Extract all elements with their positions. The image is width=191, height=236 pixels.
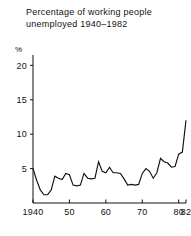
- y-axis-ticks: 5101520: [17, 61, 33, 174]
- axes-group: [33, 55, 186, 203]
- plot-area: 5101520 19405060708082: [0, 0, 191, 236]
- y-axis-tick-label: 20: [17, 61, 27, 71]
- y-axis-tick-label: 15: [17, 95, 27, 105]
- x-axis-tick-label: 82: [181, 207, 191, 217]
- x-axis-tick-label: 70: [137, 207, 147, 217]
- x-axis-tick-label: 1940: [23, 207, 44, 217]
- unemployment-line-chart: Percentage of working people unemployed …: [0, 0, 191, 236]
- x-axis-tick-label: 50: [64, 207, 74, 217]
- y-axis-tick-label: 10: [17, 129, 27, 139]
- x-axis-ticks: 19405060708082: [23, 200, 191, 218]
- y-axis-tick-label: 5: [22, 164, 27, 174]
- x-axis-tick-label: 60: [101, 207, 111, 217]
- unemployment-data-line: [33, 120, 186, 194]
